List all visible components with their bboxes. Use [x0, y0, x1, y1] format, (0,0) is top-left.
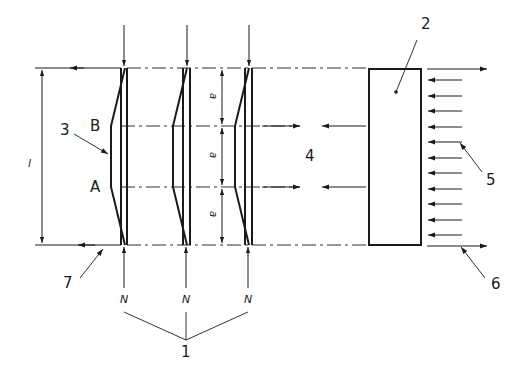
distributed-load-arrows — [428, 80, 462, 235]
dimension-a-label-top: a — [208, 93, 218, 99]
frame-3 — [235, 68, 252, 245]
leader-2 — [396, 40, 417, 92]
callout-7: 7 — [63, 276, 73, 291]
leader-5 — [460, 143, 482, 172]
dimension-a-label-bot: a — [208, 211, 218, 217]
block-2 — [369, 69, 421, 245]
point-B-label: B — [90, 119, 100, 134]
schematic-drawing — [0, 0, 526, 377]
axial-load-top — [124, 25, 249, 66]
axial-load-label-2: N — [182, 294, 190, 305]
callout-5: 5 — [486, 173, 496, 188]
callout-4: 4 — [305, 149, 315, 164]
leader-2-dot — [394, 90, 398, 94]
callout-3: 3 — [60, 123, 70, 138]
leader-6 — [461, 247, 485, 278]
callout-6: 6 — [491, 277, 501, 292]
axial-load-label-3: N — [244, 294, 252, 305]
callout-1: 1 — [181, 345, 191, 360]
axial-load-bottom — [124, 247, 248, 288]
point-A-label: A — [90, 180, 100, 195]
frame-1 — [111, 68, 127, 245]
leader-3 — [74, 134, 108, 154]
axial-load-label-1: N — [120, 294, 128, 305]
leader-7 — [80, 249, 103, 278]
diagram-canvas: 2 3 B A l 4 5 6 7 1 a a a N N N — [0, 0, 526, 377]
callout-2: 2 — [421, 17, 431, 32]
dimension-l-label: l — [28, 158, 31, 169]
leader-1-bracket — [124, 312, 248, 340]
dimension-a-label-mid: a — [208, 152, 218, 158]
frame-2 — [173, 68, 190, 245]
